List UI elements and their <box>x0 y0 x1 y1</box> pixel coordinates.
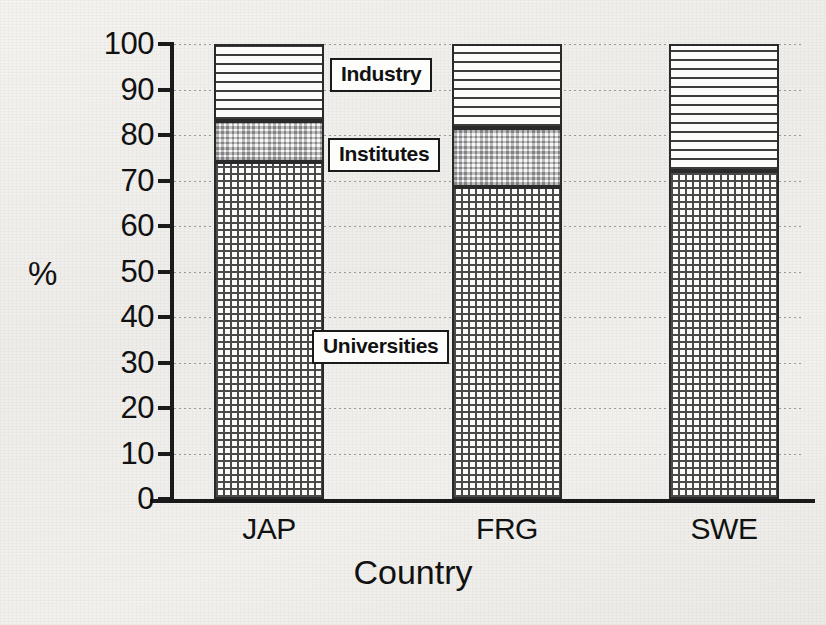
y-tick-label: 80 <box>121 117 154 153</box>
x-axis-line <box>150 499 815 503</box>
bar-segment-institutes[interactable] <box>214 121 324 162</box>
y-tick-mark <box>158 133 173 137</box>
bar-segment-institutes[interactable] <box>452 128 562 187</box>
y-tick-label: 60 <box>121 208 154 244</box>
bar-segment-industry[interactable] <box>452 44 562 128</box>
y-tick-mark <box>158 361 173 365</box>
y-tick-label: 90 <box>121 72 154 108</box>
y-tick-label: 30 <box>121 345 154 381</box>
y-tick-label: 70 <box>121 163 154 199</box>
bar-swe[interactable] <box>669 44 779 499</box>
legend-label-universities: Universities <box>312 330 449 364</box>
y-tick-mark <box>158 88 173 92</box>
x-axis-label: Country <box>0 553 826 592</box>
legend-label-institutes: Institutes <box>328 138 440 172</box>
bar-segment-universities[interactable] <box>452 187 562 499</box>
y-tick-mark <box>158 224 173 228</box>
y-tick-mark <box>158 497 173 501</box>
x-tick-label-swe: SWE <box>691 512 758 546</box>
stacked-bar-chart: % 0102030405060708090100 JAPFRGSWE Indus… <box>0 0 826 625</box>
bar-frg[interactable] <box>452 44 562 499</box>
plot-area: 0102030405060708090100 <box>172 44 802 499</box>
y-axis-label: % <box>28 255 57 293</box>
bar-segment-industry[interactable] <box>669 44 779 171</box>
y-tick-label: 40 <box>121 299 154 335</box>
y-tick-mark <box>158 406 173 410</box>
bar-segment-universities[interactable] <box>214 162 324 499</box>
legend-label-industry: Industry <box>330 58 432 92</box>
y-tick-mark <box>158 452 173 456</box>
y-tick-label: 20 <box>121 390 154 426</box>
y-tick-mark <box>158 179 173 183</box>
y-tick-label: 100 <box>104 26 154 62</box>
y-tick-label: 50 <box>121 254 154 290</box>
y-tick-label: 10 <box>121 436 154 472</box>
bar-jap[interactable] <box>214 44 324 499</box>
y-tick-mark <box>158 315 173 319</box>
y-tick-label: 0 <box>137 481 154 517</box>
bar-segment-industry[interactable] <box>214 44 324 121</box>
y-tick-mark <box>158 42 173 46</box>
bar-segment-universities[interactable] <box>669 171 779 499</box>
x-tick-label-frg: FRG <box>476 512 538 546</box>
y-tick-mark <box>158 270 173 274</box>
x-tick-label-jap: JAP <box>242 512 296 546</box>
